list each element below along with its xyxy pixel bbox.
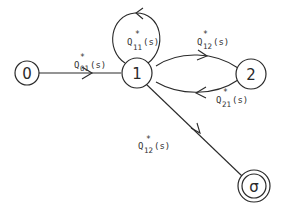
svg-text:Q: Q [216,95,221,105]
label-q01: * Q 01 (s) [74,53,106,73]
svg-text:21: 21 [222,100,231,109]
edge-1-to-2 [156,55,238,68]
node-2: 2 [236,59,266,89]
node-sigma-label: σ [249,178,259,196]
label-q21: * Q 21 (s) [216,88,248,109]
node-1: 1 [122,58,152,88]
node-0: 0 [15,61,39,85]
svg-text:Q: Q [197,37,202,47]
svg-text:(s): (s) [232,95,248,105]
label-q12-top: * Q 12 (s) [197,30,229,51]
node-0-label: 0 [22,65,32,83]
svg-text:(s): (s) [213,37,229,47]
svg-text:12: 12 [203,42,212,51]
label-q12-bottom: * Q 12 (s) [138,135,170,155]
node-1-label: 1 [132,65,142,83]
svg-text:(s): (s) [143,37,159,47]
svg-text:*: * [135,30,140,39]
svg-text:*: * [203,30,208,39]
svg-text:Q: Q [127,37,132,47]
svg-text:01: 01 [80,64,89,73]
svg-text:*: * [223,88,228,97]
node-2-label: 2 [246,66,256,84]
svg-text:Q: Q [74,60,79,70]
svg-text:(s): (s) [90,60,106,70]
svg-text:*: * [80,53,85,62]
svg-text:*: * [146,135,151,144]
node-sigma: σ [238,170,270,202]
svg-text:11: 11 [133,43,142,52]
svg-text:12: 12 [144,146,153,155]
state-diagram: 0 1 2 σ * Q 01 (s) * Q 11 (s) * Q 12 (s)… [0,0,285,211]
svg-text:(s): (s) [154,141,170,151]
label-q11: * Q 11 (s) [127,30,159,52]
svg-text:Q: Q [138,141,143,151]
